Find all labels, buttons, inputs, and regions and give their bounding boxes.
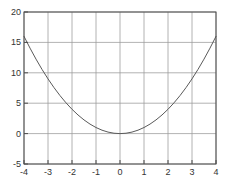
figure: -4-3-2-101234-505101520 [0,0,228,189]
parabola-chart: -4-3-2-101234-505101520 [0,0,228,189]
y-tick-label: -5 [13,159,21,169]
y-tick-label: 0 [16,129,21,139]
y-tick-label: 5 [16,98,21,108]
x-tick-label: -1 [92,167,100,177]
x-tick-label: 2 [165,167,170,177]
x-tick-label: -4 [20,167,28,177]
x-tick-label: -2 [68,167,76,177]
x-tick-label: -3 [44,167,52,177]
y-tick-label: 15 [11,37,21,47]
x-tick-label: 4 [213,167,218,177]
y-tick-label: 20 [11,7,21,17]
x-tick-label: 3 [189,167,194,177]
x-tick-label: 0 [117,167,122,177]
y-tick-label: 10 [11,68,21,78]
x-tick-label: 1 [141,167,146,177]
